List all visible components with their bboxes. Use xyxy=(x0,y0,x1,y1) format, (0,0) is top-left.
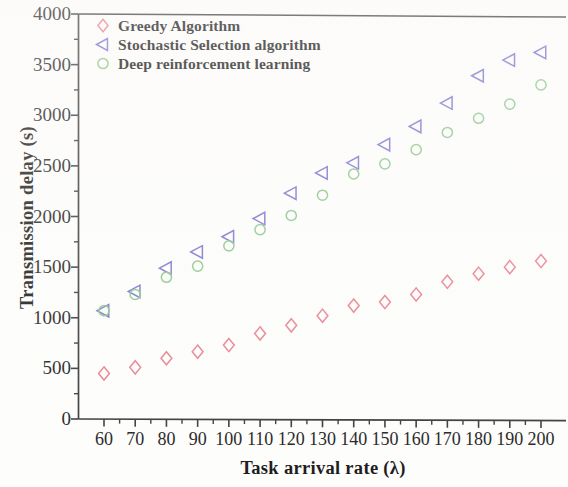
data-point xyxy=(473,267,484,280)
data-point xyxy=(316,167,328,180)
data-point xyxy=(380,295,391,308)
plot-area xyxy=(0,0,568,487)
data-point xyxy=(317,190,327,200)
data-point xyxy=(440,97,452,110)
legend-label: Deep reinforcement learning xyxy=(118,55,310,73)
data-point xyxy=(536,80,546,90)
data-point xyxy=(348,299,359,312)
data-point xyxy=(504,261,515,274)
legend-label: Greedy Algorithm xyxy=(118,17,240,35)
axis-ticks xyxy=(71,14,541,428)
data-point xyxy=(536,254,547,267)
legend-item: Stochastic Selection algorithm xyxy=(92,35,392,54)
transmission-delay-scatter-chart: Transmission delay (s) Task arrival rate… xyxy=(0,0,568,487)
data-point xyxy=(347,157,359,170)
triangle-left-icon xyxy=(92,35,118,54)
data-point xyxy=(191,246,203,259)
data-point xyxy=(411,288,422,301)
diamond-icon xyxy=(92,16,118,35)
data-points xyxy=(97,46,546,380)
legend-item: Greedy Algorithm xyxy=(92,16,392,35)
data-point xyxy=(378,138,390,151)
data-point xyxy=(223,338,234,351)
data-point xyxy=(534,46,546,59)
data-point xyxy=(349,169,359,179)
series-1 xyxy=(99,254,547,380)
data-point xyxy=(409,120,421,133)
chart-legend: Greedy AlgorithmStochastic Selection alg… xyxy=(92,16,392,73)
data-point xyxy=(161,272,171,282)
data-point xyxy=(224,241,234,251)
data-point xyxy=(473,113,483,123)
data-point xyxy=(99,367,110,380)
data-point xyxy=(380,159,390,169)
data-point xyxy=(255,225,265,235)
axes-lines xyxy=(79,14,567,421)
legend-item: Deep reinforcement learning xyxy=(92,54,392,73)
data-point xyxy=(411,145,421,155)
data-point xyxy=(193,261,203,271)
data-point xyxy=(442,127,452,137)
series-2 xyxy=(97,46,546,317)
data-point xyxy=(286,319,297,332)
data-point xyxy=(317,309,328,322)
data-point xyxy=(284,187,296,200)
data-point xyxy=(130,361,141,374)
circle-icon xyxy=(92,54,118,73)
data-point xyxy=(192,345,203,358)
data-point xyxy=(255,327,266,340)
data-point xyxy=(503,54,515,67)
data-point xyxy=(472,69,484,82)
data-point xyxy=(161,352,172,365)
data-point xyxy=(253,212,265,225)
data-point xyxy=(505,99,515,109)
legend-label: Stochastic Selection algorithm xyxy=(118,36,321,54)
data-point xyxy=(442,275,453,288)
data-point xyxy=(286,210,296,220)
